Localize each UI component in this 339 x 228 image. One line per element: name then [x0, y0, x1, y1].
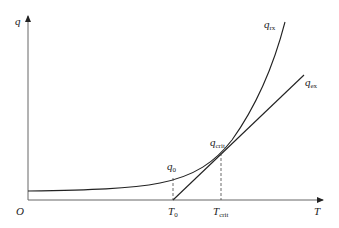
- y-axis-label: q: [15, 15, 21, 27]
- t0-label: T0: [168, 205, 178, 219]
- heat-balance-diagram: q T O qrx qex q0 qcrit T0 Tcrit: [0, 0, 339, 228]
- q-ex-label: qex: [305, 76, 318, 90]
- q0-label: q0: [167, 160, 177, 174]
- x-axis-label: T: [314, 205, 321, 217]
- q-rx-curve: [28, 22, 285, 191]
- tcrit-label: Tcrit: [213, 205, 229, 219]
- origin-label: O: [16, 205, 24, 217]
- q-rx-label: qrx: [264, 18, 276, 32]
- qcrit-label: qcrit: [210, 136, 225, 150]
- q-ex-line: [173, 75, 304, 200]
